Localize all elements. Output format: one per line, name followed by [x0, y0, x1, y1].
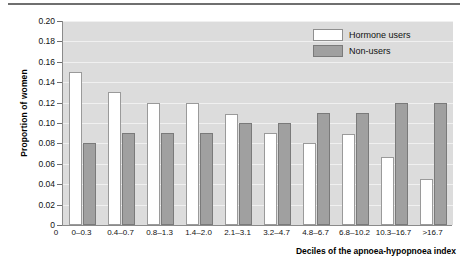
x-axis-tick-label: 3.2–4.7 [263, 228, 290, 237]
x-axis-tick-label: 2.1–3.1 [224, 228, 251, 237]
x-axis-tick-label: 0.8–1.3 [146, 228, 173, 237]
legend-item-hormone-users: Hormone users [313, 28, 447, 42]
x-axis-origin-label: 0 [54, 228, 58, 237]
y-axis-tick-label: 0.02 [38, 200, 55, 210]
y-axis-tick-label: 0.08 [38, 138, 55, 148]
legend-item-non-users: Non-users [313, 44, 447, 58]
x-axis-tick-label: >16.7 [422, 228, 442, 237]
y-axis-tick-label: 0.04 [38, 179, 55, 189]
legend-swatch-open [313, 29, 343, 41]
figure-top-rule [8, 3, 460, 5]
legend-swatch-filled [313, 45, 343, 57]
bar-hormone-users [420, 179, 433, 225]
y-axis: 00.020.040.060.080.100.120.140.160.180.2… [0, 21, 62, 225]
bar-non-users [434, 103, 447, 225]
y-axis-tick-label: 0.10 [38, 118, 55, 128]
x-axis-tick-label: 1.4–2.0 [185, 228, 212, 237]
x-axis-tick-label: 4.8–6.7 [302, 228, 329, 237]
x-axis-line [62, 225, 452, 226]
y-axis-tick-label: 0.14 [38, 77, 55, 87]
y-axis-tick-label: 0.16 [38, 57, 55, 67]
legend-label: Non-users [349, 46, 391, 56]
x-axis-tick-labels: 0–0.30.4–0.70.8–1.31.4–2.02.1–3.13.2–4.7… [0, 228, 468, 244]
x-axis-tick-label: 0.4–0.7 [107, 228, 134, 237]
figure: Proportion of women 00.020.040.060.080.1… [0, 0, 468, 279]
x-axis-tick-label: 6.8–10.2 [339, 228, 370, 237]
x-axis-tick-label: 10.3–16.7 [376, 228, 412, 237]
x-axis-title: Deciles of the apnoea-hypopnoea index [0, 246, 468, 256]
y-axis-tick-label: 0.20 [38, 16, 55, 26]
legend: Hormone users Non-users [313, 28, 447, 60]
x-axis-tick-label: 0–0.3 [71, 228, 91, 237]
legend-label: Hormone users [349, 30, 411, 40]
y-axis-tick-label: 0.18 [38, 36, 55, 46]
y-axis-tick-label: 0.06 [38, 159, 55, 169]
y-axis-tick-label: 0.12 [38, 98, 55, 108]
